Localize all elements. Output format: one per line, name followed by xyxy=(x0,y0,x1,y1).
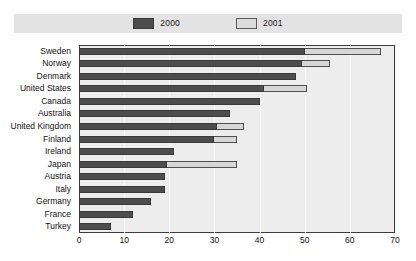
bar-2000[interactable] xyxy=(79,73,296,80)
bar-row xyxy=(79,85,395,92)
value-axis-labels: 010203040506070 xyxy=(79,234,395,250)
legend-entry-2001[interactable]: 2001 xyxy=(236,18,283,29)
category-label-germany: Germany xyxy=(36,197,71,206)
bar-chart: 2000 2001 SwedenNorwayDenmarkUnited Stat… xyxy=(0,0,416,261)
bar-2000[interactable] xyxy=(79,110,230,117)
bar-row xyxy=(79,136,395,143)
x-tick-label-30: 30 xyxy=(210,236,219,245)
x-tick-label-70: 70 xyxy=(390,236,399,245)
bar-row xyxy=(79,148,395,155)
bar-2000[interactable] xyxy=(79,48,305,55)
bar-2000[interactable] xyxy=(79,173,165,180)
bar-row xyxy=(79,123,395,130)
category-label-ireland: Ireland xyxy=(45,147,71,156)
category-label-denmark: Denmark xyxy=(37,72,71,81)
x-tick-label-0: 0 xyxy=(77,236,82,245)
bar-row xyxy=(79,211,395,218)
bar-2000[interactable] xyxy=(79,223,111,230)
category-label-japan: Japan xyxy=(48,160,71,169)
dark-gray-swatch-icon xyxy=(133,18,154,29)
light-gray-swatch-icon xyxy=(236,18,257,29)
x-tick-label-60: 60 xyxy=(345,236,354,245)
bar-row xyxy=(79,98,395,105)
bar-2000[interactable] xyxy=(79,211,133,218)
bar-2000[interactable] xyxy=(79,148,174,155)
legend-entry-2000[interactable]: 2000 xyxy=(133,18,180,29)
bar-row xyxy=(79,73,395,80)
category-label-italy: Italy xyxy=(55,185,71,194)
bar-row xyxy=(79,173,395,180)
bar-2000[interactable] xyxy=(79,198,151,205)
bar-row xyxy=(79,48,395,55)
category-label-united-kingdom: United Kingdom xyxy=(11,122,71,131)
legend-label-2000: 2000 xyxy=(160,19,180,28)
bar-2000[interactable] xyxy=(79,161,167,168)
category-label-france: France xyxy=(45,210,71,219)
bar-2000[interactable] xyxy=(79,60,302,67)
legend-label-2001: 2001 xyxy=(263,19,283,28)
x-tick-label-10: 10 xyxy=(119,236,128,245)
bar-2000[interactable] xyxy=(79,98,260,105)
category-label-australia: Australia xyxy=(38,109,71,118)
bar-2000[interactable] xyxy=(79,186,165,193)
x-tick-label-50: 50 xyxy=(300,236,309,245)
bar-2000[interactable] xyxy=(79,85,264,92)
chart-legend: 2000 2001 xyxy=(14,14,402,33)
bar-row xyxy=(79,223,395,230)
category-label-austria: Austria xyxy=(45,172,71,181)
gridline-70 xyxy=(395,45,396,233)
category-label-finland: Finland xyxy=(43,135,71,144)
x-tick-label-20: 20 xyxy=(165,236,174,245)
bar-2000[interactable] xyxy=(79,123,217,130)
category-label-united-states: United States xyxy=(20,84,71,93)
category-axis-labels: SwedenNorwayDenmarkUnited StatesCanadaAu… xyxy=(0,45,75,233)
category-label-norway: Norway xyxy=(42,59,71,68)
category-label-turkey: Turkey xyxy=(45,222,71,231)
x-tick-label-40: 40 xyxy=(255,236,264,245)
bar-2000[interactable] xyxy=(79,136,214,143)
category-label-sweden: Sweden xyxy=(40,47,71,56)
bar-row xyxy=(79,198,395,205)
bar-series-container xyxy=(79,45,395,233)
bar-row xyxy=(79,110,395,117)
plot-area xyxy=(79,45,395,233)
bar-row xyxy=(79,161,395,168)
bar-row xyxy=(79,186,395,193)
category-label-canada: Canada xyxy=(41,97,71,106)
bar-row xyxy=(79,60,395,67)
